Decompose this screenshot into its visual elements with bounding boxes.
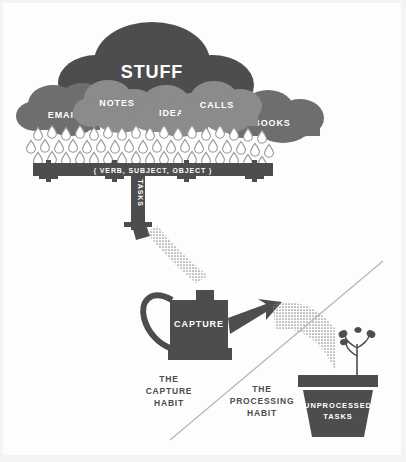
raindrop-icon: [167, 140, 176, 153]
caption-capture-line3: HABIT: [154, 398, 184, 408]
raindrop-icon: [41, 139, 50, 152]
cloud-stuff-label: STUFF: [121, 62, 184, 82]
caption-capture-habit: THE CAPTURE HABIT: [146, 374, 193, 408]
caption-capture-line1: THE: [159, 374, 178, 384]
gutter-label: ( VERB, SUBJECT, OBJECT ): [94, 167, 213, 175]
unprocessed-tasks-pot: UNPROCESSED TASKS: [298, 375, 378, 437]
raindrop-icon: [251, 143, 260, 156]
caption-capture-line2: CAPTURE: [146, 386, 193, 396]
raindrop-icon: [27, 140, 36, 153]
raindrop-icon: [153, 139, 162, 152]
raindrop-icon: [83, 140, 92, 153]
raindrop-icon: [216, 151, 225, 164]
raindrop-icon: [209, 139, 218, 152]
caption-processing-habit: THE PROCESSING HABIT: [230, 384, 295, 418]
caption-processing-line2: PROCESSING: [230, 396, 295, 406]
rain-group: [27, 125, 274, 169]
downspout-label: TASKS: [137, 179, 144, 207]
raindrop-icon: [104, 151, 113, 164]
raindrop-icon: [160, 151, 169, 164]
infographic-artwork: STUFF BOOKS EMAIL: [0, 0, 406, 462]
cloud-calls-label: CALLS: [200, 100, 235, 110]
sprout-icon: [338, 328, 376, 378]
pot-label-line2: TASKS: [323, 412, 352, 421]
pot-rim: [298, 375, 378, 387]
raindrop-icon: [265, 144, 274, 157]
cloud-notes-label: NOTES: [99, 98, 135, 108]
raindrop-icon: [55, 140, 64, 153]
downspout: TASKS: [124, 176, 152, 240]
caption-processing-line1: THE: [252, 384, 271, 394]
cloud-books-label: BOOKS: [253, 118, 291, 128]
raindrop-icon: [132, 151, 141, 164]
raindrop-icon: [69, 139, 78, 152]
watering-can: CAPTURE: [143, 290, 282, 360]
water-stream-processing: [266, 292, 346, 382]
raindrop-icon: [76, 151, 85, 164]
pot-label-line1: UNPROCESSED: [304, 401, 372, 410]
raindrop-icon: [181, 139, 190, 152]
raindrop-icon: [223, 140, 232, 153]
raindrop-icon: [125, 139, 134, 152]
gutter: ( VERB, SUBJECT, OBJECT ): [33, 160, 273, 182]
poster-stage: STUFF BOOKS EMAIL: [0, 0, 406, 462]
caption-processing-line3: HABIT: [247, 408, 277, 418]
raindrop-icon: [139, 140, 148, 153]
raindrop-icon: [237, 141, 246, 154]
raindrop-icon: [97, 139, 106, 152]
raindrop-icon: [195, 140, 204, 153]
raindrop-icon: [111, 140, 120, 153]
watering-can-label: CAPTURE: [174, 319, 224, 329]
